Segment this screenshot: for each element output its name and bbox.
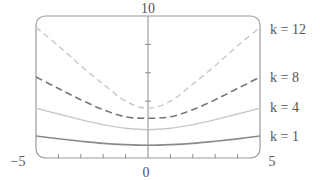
legend-k4: k = 4 [270,100,299,115]
legend-k1: k = 1 [270,129,299,144]
legend-k12: k = 12 [270,22,306,37]
x-left-label: −5 [11,154,26,169]
x-right-label: 5 [269,154,276,169]
chart: 10 −5 0 5 k = 12 k = 8 k = 4 k = 1 [0,0,320,180]
x-zero-label: 0 [143,165,150,180]
y-top-label: 10 [141,1,155,16]
legend-k8: k = 8 [270,70,299,85]
